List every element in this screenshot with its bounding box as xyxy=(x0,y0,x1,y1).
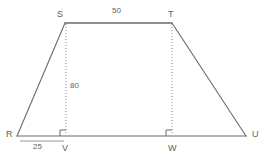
segment-RS xyxy=(17,23,65,136)
figure-canvas xyxy=(0,0,271,158)
geometry-figure: S T R U V W 50 80 25 xyxy=(0,0,271,158)
measurement-label-top-side: 50 xyxy=(112,7,121,15)
vertex-label-V: V xyxy=(62,144,68,153)
vertex-label-U: U xyxy=(252,130,259,139)
vertex-label-S: S xyxy=(57,10,63,19)
vertex-label-T: T xyxy=(168,10,174,19)
measurement-label-base-segment: 25 xyxy=(33,143,42,151)
right-angle-marker-V xyxy=(60,130,66,136)
measurement-label-height: 80 xyxy=(70,82,79,90)
right-angle-marker-W xyxy=(166,130,172,136)
vertex-label-W: W xyxy=(168,144,177,153)
vertex-label-R: R xyxy=(6,130,13,139)
segment-TU xyxy=(172,23,246,136)
